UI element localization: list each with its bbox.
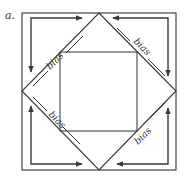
bias-label-bottom-left: bias xyxy=(47,109,69,131)
bias-label-top-left: bias xyxy=(44,50,66,72)
inner-square xyxy=(60,52,137,131)
bias-label-top-right: bias xyxy=(132,36,154,58)
bias-label-bottom-right: bias xyxy=(132,125,154,147)
diamond xyxy=(22,13,176,170)
outer-square xyxy=(22,13,176,170)
bias-diagram: bias bias bias bias xyxy=(0,0,193,177)
